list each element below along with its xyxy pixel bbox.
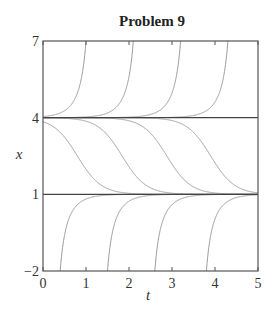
x-tick-label: 1 xyxy=(83,276,90,291)
solution-curve-upper-2 xyxy=(43,41,134,118)
y-axis-label: x xyxy=(15,146,23,162)
y-axis-ticks: −2147 xyxy=(24,34,39,279)
solution-curve-lower-3 xyxy=(155,194,258,271)
solution-curve-upper-3 xyxy=(43,41,181,118)
equilibrium-lines xyxy=(43,118,258,195)
y-tick-label: 7 xyxy=(32,34,39,49)
solution-curve-middle-2 xyxy=(43,118,258,195)
x-tick-label: 3 xyxy=(169,276,176,291)
y-tick-label: 1 xyxy=(32,187,39,202)
x-tick-label: 0 xyxy=(40,276,47,291)
solution-curve-lower-2 xyxy=(108,194,259,271)
x-axis-label: t xyxy=(146,287,151,303)
chart-title: Problem 9 xyxy=(119,13,185,29)
solution-curve-middle-4 xyxy=(43,118,258,193)
solution-curve-lower-4 xyxy=(206,195,258,271)
solution-curve-middle-3 xyxy=(43,118,258,195)
x-tick-label: 5 xyxy=(255,276,262,291)
solution-curve-upper-4 xyxy=(43,41,228,118)
solution-curve-lower-1 xyxy=(60,194,258,271)
solution-curves xyxy=(43,41,258,271)
chart: Problem 9 012345 −2147 t x xyxy=(0,0,275,324)
x-tick-label: 4 xyxy=(212,276,219,291)
x-tick-label: 2 xyxy=(126,276,133,291)
solution-curve-upper-1 xyxy=(43,41,86,117)
y-tick-label: −2 xyxy=(24,264,39,279)
x-axis-ticks: 012345 xyxy=(40,41,262,291)
y-tick-label: 4 xyxy=(32,111,39,126)
plot-frame xyxy=(43,41,258,271)
